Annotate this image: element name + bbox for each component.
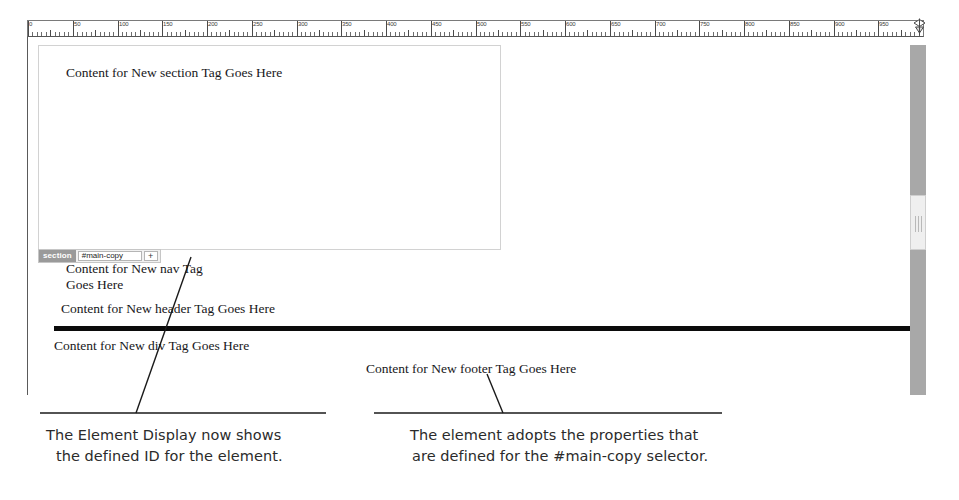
element-display-id-input[interactable]: #main-copy [78, 251, 142, 261]
ruler-tick [798, 32, 799, 36]
ruler-tick [887, 32, 888, 36]
ruler-tick [498, 30, 499, 36]
ruler-tick [780, 32, 781, 36]
ruler-tick [547, 32, 548, 36]
ruler-tick [364, 30, 365, 36]
ruler-tick [453, 30, 454, 36]
ruler-tick [337, 32, 338, 36]
ruler-tick [225, 32, 226, 36]
ruler-tick [538, 32, 539, 36]
ruler-tick [82, 32, 83, 36]
ruler-tick [135, 32, 136, 36]
ruler-tick [126, 32, 127, 36]
ruler-tick [708, 32, 709, 36]
ruler-tick [390, 32, 391, 36]
ruler-tick [623, 32, 624, 36]
ruler-tick [883, 32, 884, 36]
ruler-tick [404, 32, 405, 36]
ruler-tick [601, 32, 602, 36]
scrollbar-grip-icon [915, 216, 923, 232]
ruler-tick [305, 32, 306, 36]
ruler-tick [484, 32, 485, 36]
ruler-tick [614, 32, 615, 36]
ruler-tick [422, 32, 423, 36]
ruler-tick [180, 32, 181, 36]
ruler-label: 300 [297, 21, 307, 28]
ruler-tick [516, 32, 517, 36]
horizontal-rule-divider [54, 326, 912, 331]
ruler-tick [762, 32, 763, 36]
ruler-tick [185, 30, 186, 36]
ruler-tick [731, 32, 732, 36]
design-canvas[interactable]: Content for New section Tag Goes Here se… [28, 37, 908, 395]
ruler-tick [153, 32, 154, 36]
ruler-tick [68, 32, 69, 36]
ruler-tick [319, 30, 320, 36]
ruler-tick [176, 32, 177, 36]
caption-right-line2: are defined for the #main-copy selector. [410, 446, 750, 467]
ruler-tick [771, 32, 772, 36]
ruler-tick [596, 32, 597, 36]
ruler-tick [578, 32, 579, 36]
caption-left: The Element Display now shows the define… [46, 425, 366, 467]
horizontal-ruler[interactable]: 0501001502002503003504004505005506006507… [27, 20, 924, 37]
ruler-tick [507, 32, 508, 36]
ruler-tick [713, 32, 714, 36]
ruler-tick [592, 32, 593, 36]
page-width-marker-icon[interactable] [911, 18, 928, 37]
ruler-tick [811, 30, 812, 36]
ruler-tick [677, 30, 678, 36]
ruler-tick [695, 32, 696, 36]
ruler-label: 400 [386, 21, 396, 28]
ruler-tick [368, 32, 369, 36]
ruler-tick [95, 30, 96, 36]
ruler-tick [525, 32, 526, 36]
ruler-tick [717, 32, 718, 36]
ruler-tick [261, 32, 262, 36]
ruler-tick [198, 32, 199, 36]
caption-left-line2: the defined ID for the element. [46, 446, 366, 467]
ruler-tick [690, 32, 691, 36]
ruler-label: 950 [878, 21, 888, 28]
ruler-label: 250 [252, 21, 262, 28]
ruler-tick [449, 32, 450, 36]
ruler-tick [757, 32, 758, 36]
section-element-box[interactable]: Content for New section Tag Goes Here [38, 45, 501, 250]
ruler-tick [413, 32, 414, 36]
ruler-tick [632, 30, 633, 36]
ruler-tick [646, 32, 647, 36]
ruler-tick [323, 32, 324, 36]
ruler-tick [203, 32, 204, 36]
ruler-tick [283, 32, 284, 36]
ruler-tick [359, 32, 360, 36]
ruler-tick [493, 32, 494, 36]
ruler-tick [748, 32, 749, 36]
ruler-tick [32, 32, 33, 36]
ruler-tick [59, 32, 60, 36]
ruler-tick [247, 32, 248, 36]
ruler-tick [292, 32, 293, 36]
ruler-label: 600 [565, 21, 575, 28]
ruler-tick [856, 30, 857, 36]
ruler-tick [113, 32, 114, 36]
ruler-tick [301, 32, 302, 36]
vertical-scrollbar-thumb[interactable] [910, 195, 926, 250]
ruler-tick [860, 32, 861, 36]
ruler-tick [194, 32, 195, 36]
element-display-add-class-button[interactable]: + [144, 251, 158, 261]
ruler-tick [440, 32, 441, 36]
ruler-tick [471, 32, 472, 36]
ruler-tick [104, 32, 105, 36]
ruler-tick [793, 32, 794, 36]
ruler-tick [395, 32, 396, 36]
ruler-tick [467, 32, 468, 36]
vertical-scrollbar[interactable] [910, 45, 926, 395]
ruler-tick [50, 30, 51, 36]
ruler-tick [37, 32, 38, 36]
ruler-tick [229, 30, 230, 36]
ruler-label: 450 [431, 21, 441, 28]
ruler-tick [346, 32, 347, 36]
ruler-tick [556, 32, 557, 36]
ruler-tick [189, 32, 190, 36]
ruler-tick [502, 32, 503, 36]
